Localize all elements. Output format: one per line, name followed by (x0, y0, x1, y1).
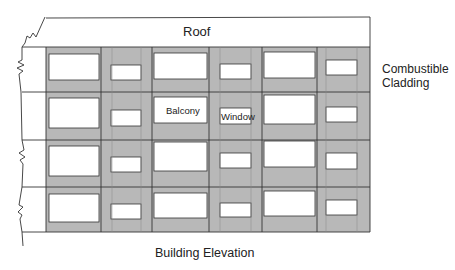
window-opening (111, 65, 141, 80)
balcony-opening (49, 194, 99, 222)
window-opening (326, 200, 357, 215)
window-opening (111, 157, 141, 172)
window-opening (326, 107, 357, 122)
window-opening (326, 153, 357, 169)
window-opening (220, 203, 251, 217)
balcony-opening (154, 193, 207, 218)
balcony-opening (264, 141, 315, 167)
balcony-opening (49, 146, 99, 176)
left-break-line (17, 17, 45, 246)
window-opening (220, 153, 251, 168)
balcony-opening (49, 54, 99, 80)
window-opening (111, 110, 141, 126)
balcony-opening (154, 53, 207, 79)
balcony-opening (154, 142, 207, 171)
balcony-opening (264, 191, 315, 216)
window-label: Window (221, 111, 255, 122)
balcony-opening (49, 98, 99, 128)
balcony-label: Balcony (166, 105, 200, 116)
building-elevation-diagram (0, 0, 455, 270)
combustible-cladding-label: Combustible Cladding (382, 62, 449, 90)
window-opening (326, 60, 357, 75)
building-elevation-caption: Building Elevation (155, 246, 254, 260)
window-opening (220, 64, 251, 79)
roof-label: Roof (183, 24, 210, 39)
window-opening (111, 204, 141, 219)
balcony-opening (264, 52, 315, 78)
balcony-opening (264, 95, 315, 124)
